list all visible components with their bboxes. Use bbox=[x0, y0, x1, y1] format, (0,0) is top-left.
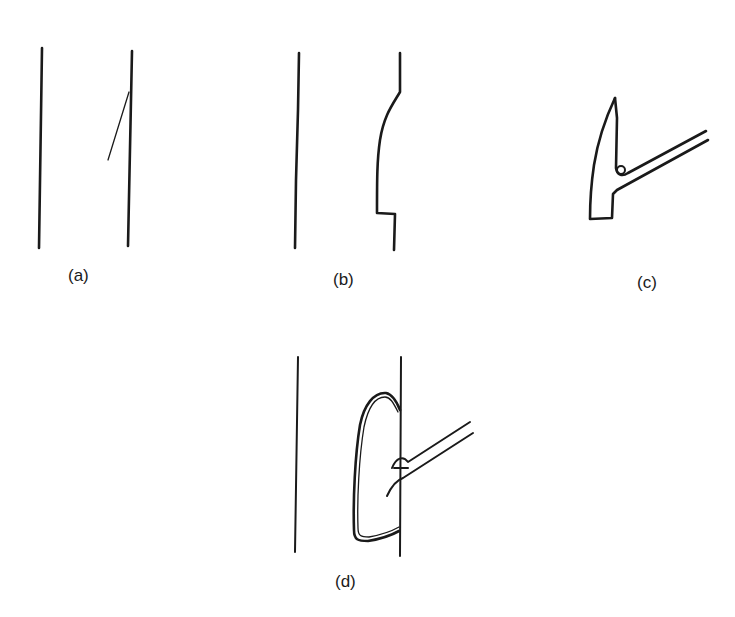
panel-c-upper-edge bbox=[615, 98, 706, 175]
panel-c-drawing bbox=[590, 98, 708, 219]
panel-b-left-wall bbox=[295, 53, 299, 248]
panel-a-right-wall bbox=[128, 51, 132, 246]
panel-b-drawing bbox=[295, 53, 400, 250]
panel-d-right-wall bbox=[400, 357, 401, 556]
panel-b-right-wall-profile bbox=[377, 53, 400, 250]
panel-a-drawing bbox=[39, 48, 132, 248]
panel-a-left-wall bbox=[39, 48, 42, 248]
panel-d-label: (d) bbox=[335, 572, 356, 592]
panel-d-left-wall bbox=[295, 357, 298, 552]
panel-b-label: (b) bbox=[333, 270, 354, 290]
panel-c-label: (c) bbox=[637, 273, 657, 293]
panel-d-drawing bbox=[295, 357, 473, 556]
panel-a-crack-line bbox=[108, 92, 129, 160]
panel-c-head-outline bbox=[590, 98, 708, 219]
panel-a-label: (a) bbox=[68, 266, 89, 286]
panel-c-pivot-circle bbox=[617, 166, 625, 174]
diagram-canvas bbox=[0, 0, 735, 617]
